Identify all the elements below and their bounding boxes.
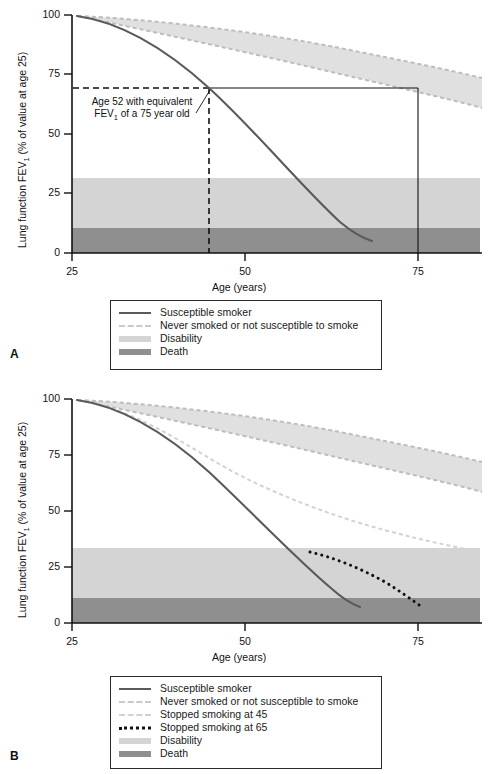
never-smoked-lower-edge-b [78,400,482,492]
y-axis-title-prefix-a: Lung function FEV [16,162,28,248]
legend-item-death-a: Death [119,345,371,358]
legend-label-stopped-65-b: Stopped smoking at 65 [160,721,267,734]
legend-item-stopped-45-b: Stopped smoking at 45 [119,708,371,721]
x-axis-title-a: Age (years) [212,281,266,293]
annotation-line-2-suffix-a: of a 75 year old [118,108,190,119]
y-tick-label-100-a: 100 [24,8,60,20]
x-tick-label-75-b: 75 [398,635,438,647]
panel-b-plot [0,386,490,672]
x-tick-label-50-b: 50 [225,635,265,647]
legend-label-stopped-45-b: Stopped smoking at 45 [160,708,267,721]
legend-item-never-smoked-b: Never smoked or not susceptible to smoke [119,695,371,708]
legend-swatch-dotted-black-b [119,723,151,733]
legend-label-disability-b: Disability [160,734,202,747]
y-axis-title-suffix-a: (% of value at age 25) [16,52,28,158]
legend-item-stopped-65-b: Stopped smoking at 65 [119,721,371,734]
never-smoked-lower-edge-a [78,16,482,108]
legend-item-never-smoked-a: Never smoked or not susceptible to smoke [119,319,371,332]
y-axis-title-b: Lung function FEV1 (% of value at age 25… [16,422,31,618]
annotation-line-2-prefix-a: FEV [94,108,113,119]
y-axis-title-sub-a: 1 [22,157,31,161]
x-tick-label-50-a: 50 [225,265,265,277]
panel-letter-b: B [10,749,19,763]
legend-label-disability-a: Disability [160,332,202,345]
x-tick-label-75-a: 75 [398,265,438,277]
legend-item-susceptible-smoker-a: Susceptible smoker [119,306,371,319]
annotation-line-1-a: Age 52 with equivalent [92,96,193,107]
x-tick-label-25-a: 25 [52,265,92,277]
panel-b: 100 75 50 25 0 25 50 75 Age (years) Lung… [0,386,490,774]
legend-swatch-band-dark-b [119,749,151,759]
y-axis-title-suffix-b: (% of value at age 25) [16,422,28,528]
legend-label-death-b: Death [160,747,188,760]
y-axis-title-a: Lung function FEV1 (% of value at age 25… [16,52,31,248]
death-band-a [72,228,480,253]
legend-item-disability-b: Disability [119,734,371,747]
disability-band-b [72,548,480,598]
legend-item-death-b: Death [119,747,371,760]
legend-a: Susceptible smoker Never smoked or not s… [110,300,382,370]
legend-swatch-solid-dark-a [119,308,151,318]
panel-letter-a: A [10,347,19,361]
panel-a: 100 75 50 25 0 25 50 75 Age (years) Lung… [0,0,490,386]
y-axis-title-sub-b: 1 [22,527,31,531]
legend-label-susceptible-smoker-a: Susceptible smoker [160,306,252,319]
legend-item-susceptible-smoker-b: Susceptible smoker [119,682,371,695]
legend-swatch-dashed-light2-b [119,710,151,720]
x-axis-title-b: Age (years) [212,651,266,663]
legend-b: Susceptible smoker Never smoked or not s… [110,676,382,769]
never-smoked-band-b [78,400,482,492]
death-band-b [72,598,480,623]
legend-swatch-band-light-a [119,334,151,344]
legend-item-disability-a: Disability [119,332,371,345]
legend-label-death-a: Death [160,345,188,358]
disability-band-a [72,178,480,228]
legend-swatch-dashed-light-a [119,321,151,331]
annotation-text-a: Age 52 with equivalent FEV1 of a 75 year… [82,96,202,124]
legend-label-never-smoked-a: Never smoked or not susceptible to smoke [160,319,358,332]
legend-label-never-smoked-b: Never smoked or not susceptible to smoke [160,695,358,708]
y-axis-title-prefix-b: Lung function FEV [16,532,28,618]
y-tick-label-100-b: 100 [24,392,60,404]
never-smoked-band-a [78,16,482,108]
legend-swatch-dashed-light-b [119,697,151,707]
legend-swatch-band-dark-a [119,347,151,357]
x-tick-label-25-b: 25 [52,635,92,647]
legend-swatch-solid-dark-b [119,684,151,694]
legend-swatch-band-light-b [119,736,151,746]
panel-a-plot [0,0,490,300]
legend-label-susceptible-smoker-b: Susceptible smoker [160,682,252,695]
